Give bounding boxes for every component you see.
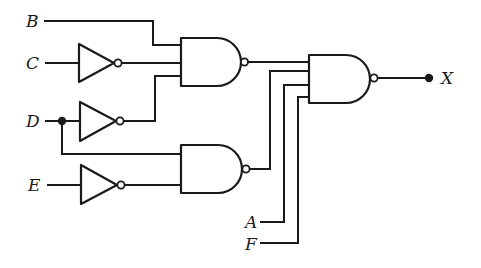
nand-gate-2-bubble — [242, 165, 249, 172]
nand-gate-2-icon — [181, 145, 242, 193]
wire-not-d — [124, 76, 181, 121]
output-terminal-dot — [425, 74, 433, 82]
input-b: B — [25, 11, 181, 45]
inverter-e-icon — [81, 165, 117, 204]
nand-gate-3-bubble — [370, 74, 377, 81]
inverter-d-bubble — [116, 117, 123, 124]
nand-gate-3-icon — [309, 55, 370, 103]
logic-circuit-diagram: B C D E A — [0, 0, 481, 268]
wire-b — [45, 21, 181, 45]
nand-gate-2 — [181, 71, 309, 193]
inverter-c-icon — [79, 44, 114, 82]
input-e: E — [27, 165, 181, 204]
label-f: F — [244, 234, 258, 254]
inverter-d-icon — [80, 102, 116, 141]
label-e: E — [27, 175, 41, 195]
nand-gate-3: X — [309, 55, 454, 103]
input-a: A — [243, 85, 309, 232]
label-a: A — [243, 212, 257, 232]
nand-gate-1 — [181, 38, 309, 86]
wire-a — [261, 85, 309, 222]
label-c: C — [26, 53, 39, 73]
inverter-e-bubble — [117, 181, 124, 188]
inverter-c-bubble — [114, 59, 121, 66]
nand-gate-1-icon — [181, 38, 241, 86]
label-d: D — [25, 111, 40, 131]
input-d: D — [25, 76, 181, 154]
label-x: X — [439, 68, 454, 88]
label-b: B — [25, 11, 39, 31]
